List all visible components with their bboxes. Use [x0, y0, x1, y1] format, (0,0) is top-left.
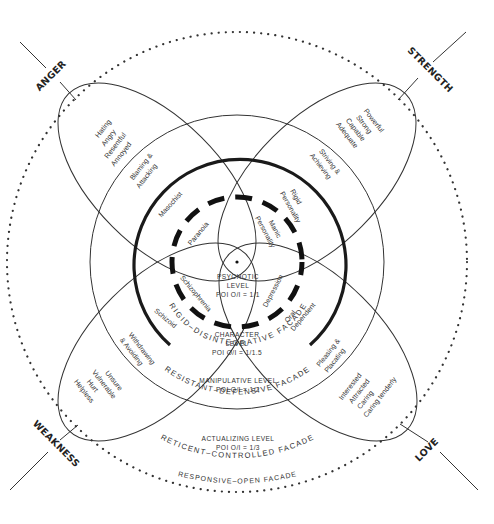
actualizing-level: ACTUALIZING LEVEL POI O/I = 1/3	[202, 435, 275, 451]
weakness-outer-feelings: Unsure Vulnerable Hurt Helpless	[72, 359, 126, 413]
actualizing-diagram: ANGER STRENGTH WEAKNESS LOVE Hating Angr…	[0, 0, 494, 524]
strength-inner-rigid-personality: Rigid Personality	[278, 185, 311, 224]
axis-lines	[10, 32, 478, 490]
center-point	[235, 260, 238, 263]
label-strength: STRENGTH	[406, 45, 456, 95]
manipulative-title: MANIPULATIVE LEVEL	[199, 377, 276, 384]
label-love: LOVE	[413, 436, 441, 464]
actualizing-poi: POI O/I = 1/3	[216, 444, 260, 451]
label-anger: ANGER	[33, 58, 68, 93]
psychotic-poi: POI O/I = 1/1	[216, 291, 260, 298]
love-outer-feelings: Interested Attracted Caring Caring tende…	[337, 356, 399, 420]
psychotic-level-word: LEVEL	[227, 282, 250, 289]
anger-middle-behavior: Blaming & Attacking	[127, 151, 163, 189]
facade-responsive-open: RESPONSIVE–OPEN FACADE	[178, 470, 298, 484]
weakness-middle-behavior: Withdrawing & Avoiding	[118, 330, 157, 372]
psychotic-title: PSYCHOTIC	[217, 273, 259, 280]
strength-core-manic-personality: Manic Personality	[253, 210, 285, 249]
strength-middle-behavior: Striving & Achieving	[308, 146, 342, 183]
love-core-depression: Depression	[261, 273, 285, 308]
strength-outer-feelings: Powerful Strong Capable Adequate	[334, 102, 386, 153]
anger-core-paranoia: Paranoia	[186, 220, 209, 246]
actualizing-title: ACTUALIZING LEVEL	[202, 435, 275, 442]
character-poi: POI O/I = 1/1.5	[212, 349, 262, 356]
facade-rigid-disintegrative: RIGID–DISINTEGRATIVE FACADE	[167, 301, 308, 347]
love-middle-behavior: Pleasing & Placating	[315, 337, 350, 375]
psychotic-level: PSYCHOTIC LEVEL POI O/I = 1/1	[216, 273, 260, 298]
anger-outer-feelings: Hating Angry Resentful Annoyed	[85, 118, 136, 168]
